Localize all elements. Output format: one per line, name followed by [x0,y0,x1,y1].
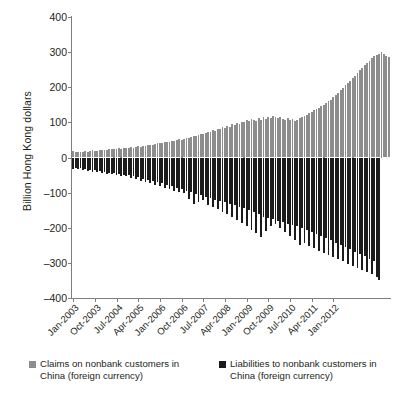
y-tick-label: 100 [49,117,67,128]
x-tick-mark [333,298,334,302]
y-tick-label: –200 [44,223,67,234]
y-tick-label: –400 [44,293,67,304]
legend-swatch-icon [29,361,36,368]
bar-claims [388,57,390,157]
y-axis-title: Billion Hong Kong dollars [21,41,33,261]
legend-item: Claims on nonbank customers in China (fo… [29,358,197,381]
y-tick-label: 0 [61,152,67,163]
chart-figure: Billion Hong Kong dollars 4003002001000–… [0,0,416,398]
plot-area: 4003002001000–100–200–300–400 [72,17,390,298]
bar-column [388,17,390,298]
legend-swatch-icon [219,361,226,368]
legend-label: Claims on nonbank customers in China (fo… [40,358,197,381]
y-tick-label: 400 [49,12,67,23]
x-tick-mark [138,298,139,302]
legend-item: Liabilities to nonbank customers in Chin… [219,358,387,381]
x-axis-line [71,298,391,299]
x-tick-mark [203,298,204,302]
y-tick-mark [68,298,72,299]
y-tick-label: 300 [49,47,67,58]
y-tick-label: 200 [49,82,67,93]
bar-series-group [72,17,390,298]
legend-label: Liabilities to nonbank customers in Chin… [230,358,387,381]
y-tick-label: –300 [44,258,67,269]
x-tick-mark [268,298,269,302]
y-tick-label: –100 [44,187,67,198]
chart-legend: Claims on nonbank customers in China (fo… [0,358,416,381]
